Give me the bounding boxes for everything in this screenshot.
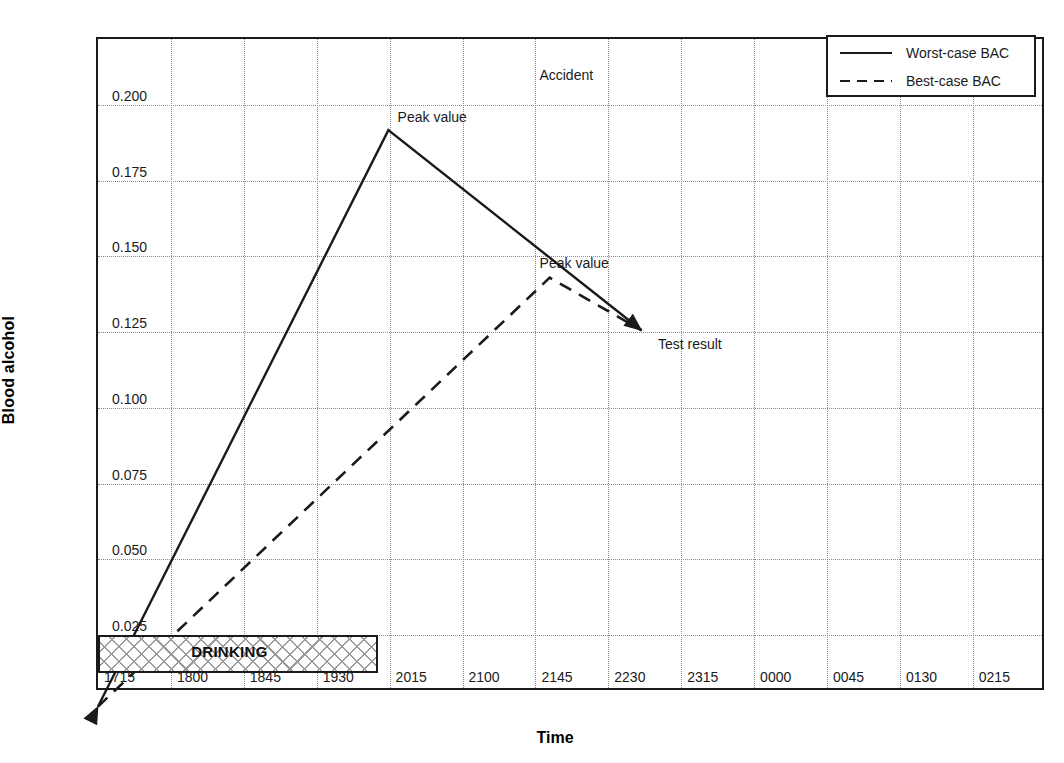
annotation-test-result: Test result [658,336,722,352]
legend-line-solid [838,47,894,59]
series-line-worst-case [98,130,642,706]
series-layer [98,39,1042,688]
legend-item-best-case[interactable]: Best-case BAC [828,67,1034,95]
legend-label-best-case: Best-case BAC [906,73,1001,89]
x-axis-title: Time [455,729,655,747]
annotation-worst-case-peak: Peak value [398,109,467,125]
legend-line-dashed [838,75,894,87]
annotation-accident: Accident [539,67,593,83]
drinking-span-label: DRINKING [191,643,268,660]
legend: Worst-case BAC Best-case BAC [826,35,1036,97]
plot-area: 0.0250.0500.0750.1000.1250.1500.1750.200… [96,37,1044,690]
legend-item-worst-case[interactable]: Worst-case BAC [828,39,1034,67]
annotation-best-case-peak: Peak value [540,255,609,271]
bac-timeline-chart: Blood alcohol Time 0.0250.0500.0750.1000… [0,0,1064,763]
legend-label-worst-case: Worst-case BAC [906,45,1009,61]
y-axis-title: Blood alcohol [0,250,30,490]
